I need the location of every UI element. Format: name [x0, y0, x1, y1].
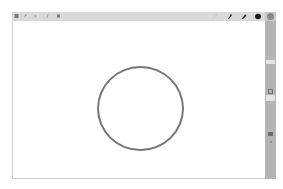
undo-icon[interactable]: [23, 13, 28, 19]
eraser-icon[interactable]: [56, 13, 61, 19]
top-toolbar: [12, 12, 265, 21]
pen-medium-icon[interactable]: [240, 12, 248, 21]
text-icon[interactable]: [45, 13, 50, 19]
right-sidebar: [265, 12, 276, 179]
shape-panel-band: [266, 95, 275, 101]
square-icon[interactable]: [268, 89, 273, 94]
redo-icon[interactable]: [33, 13, 38, 19]
color-picker-button[interactable]: [265, 12, 276, 21]
pencil-icon[interactable]: [211, 12, 219, 21]
layer-icon[interactable]: [268, 132, 273, 136]
color-circle-icon: [267, 13, 274, 20]
pen-fine-icon[interactable]: [226, 12, 234, 21]
drawn-circle[interactable]: [97, 66, 184, 151]
marker-icon[interactable]: [254, 12, 262, 21]
select-icon[interactable]: [14, 13, 19, 19]
dot-icon[interactable]: [270, 141, 272, 143]
panel-band[interactable]: [266, 60, 275, 64]
